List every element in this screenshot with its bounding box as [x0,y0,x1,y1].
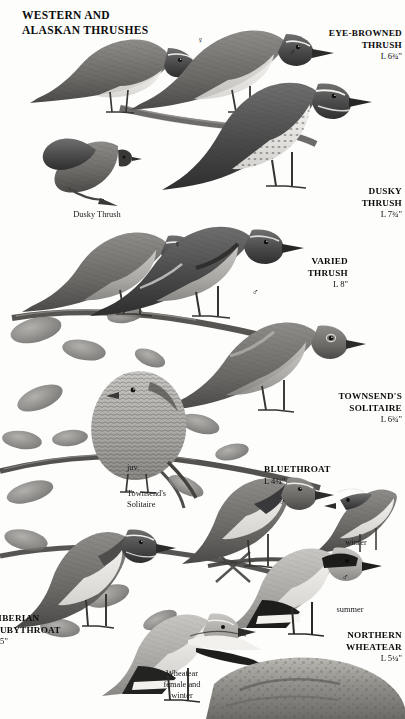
bird-dusky-thrush-flight [43,138,142,206]
species-label-bluethroat: BLUETHROAT L 4¾" [264,464,384,486]
caption-wheatear-female-and-winter: Wheatear female and winter [144,669,220,702]
wheatear-tail-pattern [188,632,268,669]
species-label-siberian-rubythroat: SIBERIAN RUBYTHROAT L 5" [0,613,113,647]
rock-perch [206,658,405,719]
species-length: L 5¼" [282,653,402,664]
caption-winter: winter [333,538,379,549]
species-name-line1: NORTHERN [347,630,402,640]
species-length: L 8" [268,279,348,290]
sex-symbol-varied-female: ♀ [174,240,181,249]
species-label-townsends-solitaire: TOWNSEND'S SOLITAIRE L 6¾" [282,391,402,425]
species-label-northern-wheatear: NORTHERN WHEATEAR L 5¼" [282,630,402,664]
caption-dusky-thrush: Dusky Thrush [52,210,142,221]
sex-symbol-bluethroat-male: ♂ [279,498,286,507]
species-label-varied-thrush: VARIED THRUSH L 8" [268,256,348,290]
species-name-line2: THRUSH [308,268,348,278]
species-name-line1: BLUETHROAT [264,464,331,474]
species-name-line2: RUBYTHROAT [0,625,61,635]
sex-symbol-eye-browed-female: ♀ [197,36,204,45]
species-length: L 6¾" [282,51,402,62]
species-length: L 4¾" [264,476,384,487]
page-title: WESTERN AND ALASKAN THRUSHES [22,8,148,37]
species-name-line2: THRUSH [362,198,402,208]
species-length: L 5" [0,636,113,647]
species-name-line1: VARIED [311,256,348,266]
species-label-eye-browed-thrush: EYE-BROWNED THRUSH L 6¾" [282,28,402,62]
species-name-line1: TOWNSEND'S [338,391,402,401]
caption-juvenile: juv. [127,463,167,474]
species-length: L 6¾" [282,414,402,425]
species-name-line1: EYE-BROWNED [329,28,402,38]
species-length: L 7¾" [292,209,402,220]
species-label-dusky-thrush: DUSKY THRUSH L 7¾" [292,186,402,220]
species-name-line1: SIBERIAN [0,613,39,623]
species-name-line1: DUSKY [369,186,402,196]
sex-symbol-eye-browed-male: ♂ [289,48,296,57]
species-name-line2: THRUSH [362,40,402,50]
species-name-line2: WHEATEAR [346,642,402,652]
field-guide-plate: WESTERN AND ALASKAN THRUSHES EYE-BROWNED… [0,0,405,719]
species-name-line2: SOLITAIRE [349,403,402,413]
sex-symbol-varied-male: ♂ [252,288,259,297]
sex-symbol-wheatear-male: ♂ [342,573,349,582]
caption-townsends-solitaire: Townsend's Solitaire [127,489,207,511]
caption-summer: summer [324,605,376,616]
